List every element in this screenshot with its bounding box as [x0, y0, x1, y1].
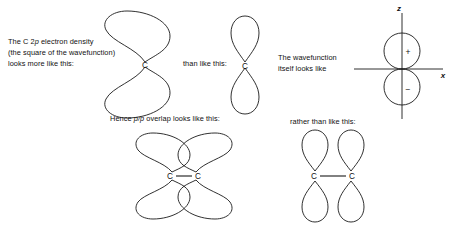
nooverlap-left-atom-label: C [311, 172, 317, 181]
positive-sign-label: + [406, 47, 411, 57]
orbital-diagram-figure: The C 2p electron density (the square of… [0, 0, 452, 227]
caption-electron-density: The C 2p electron density (the square of… [8, 36, 115, 70]
caption-hence-suffix: overlap looks like this: [144, 114, 220, 123]
overlap-left-lower-lobe [136, 180, 190, 219]
no-overlap-diagram: C C [302, 130, 364, 222]
diagram-vector-layer: C C + − z x C C [0, 0, 452, 227]
caption-density-line-1: The C 2p electron density [8, 37, 93, 46]
caption-wavefunction-line-1: The wavefunction [278, 53, 337, 62]
caption-wavefunction: The wavefunction itself looks like [278, 52, 337, 74]
wavefunction-atom-label: C [242, 62, 248, 71]
nooverlap-right-atom-label: C [349, 172, 355, 181]
pp-overlap-diagram: C C [136, 133, 232, 219]
nooverlap-left-lower-lobe [302, 181, 328, 222]
z-axis-label: z [396, 4, 401, 13]
negative-lobe-circle [384, 69, 420, 105]
caption-density-line-1-part-a: The C 2 [8, 37, 35, 46]
caption-hence-prefix: Hence [110, 114, 134, 123]
nooverlap-right-lower-lobe [338, 181, 364, 222]
overlap-left-upper-lobe [136, 133, 190, 172]
caption-wavefunction-line-2: itself looks like [278, 64, 327, 73]
caption-pp-overlap: Hence p/p overlap looks like this: [110, 113, 220, 124]
caption-density-line-1-part-b: electron density [39, 37, 94, 46]
nooverlap-left-upper-lobe [302, 130, 328, 171]
density-lower-lobe [105, 67, 170, 118]
positive-lobe-circle [384, 33, 420, 69]
wavefunction-lower-lobe [231, 68, 259, 114]
caption-rather-than: rather than like this: [290, 116, 356, 127]
wavefunction-axes-orbital: + − z x [354, 4, 446, 119]
overlap-right-upper-lobe [178, 133, 232, 172]
negative-sign-label: − [406, 84, 411, 94]
density-atom-label: C [142, 61, 148, 70]
wavefunction-upper-lobe [231, 16, 259, 62]
overlap-right-atom-label: C [195, 172, 201, 181]
x-axis-label: x [440, 71, 446, 80]
nooverlap-right-upper-lobe [338, 130, 364, 171]
caption-than-like-this: than like this: [183, 58, 227, 69]
overlap-right-lower-lobe [178, 180, 232, 219]
caption-density-line-3: looks more like this: [8, 59, 74, 68]
overlap-left-atom-label: C [167, 172, 173, 181]
caption-density-line-2: (the square of the wavefunction) [8, 48, 115, 57]
wavefunction-orbital: C [231, 16, 259, 114]
